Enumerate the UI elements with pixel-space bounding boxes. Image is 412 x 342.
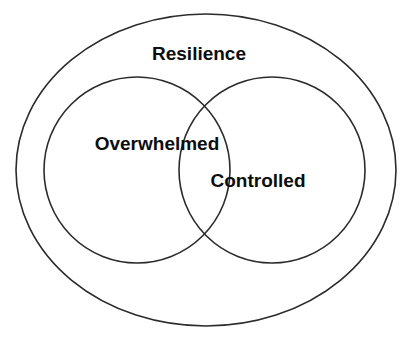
inner-set-circle-overwhelmed bbox=[44, 77, 230, 263]
venn-diagram-canvas: Resilience Overwhelmed Controlled bbox=[0, 0, 412, 342]
outer-set-label-resilience: Resilience bbox=[152, 43, 246, 64]
inner-set-label-overwhelmed: Overwhelmed bbox=[95, 133, 220, 154]
inner-set-label-controlled: Controlled bbox=[211, 170, 306, 191]
venn-diagram-svg: Resilience Overwhelmed Controlled bbox=[0, 0, 412, 342]
